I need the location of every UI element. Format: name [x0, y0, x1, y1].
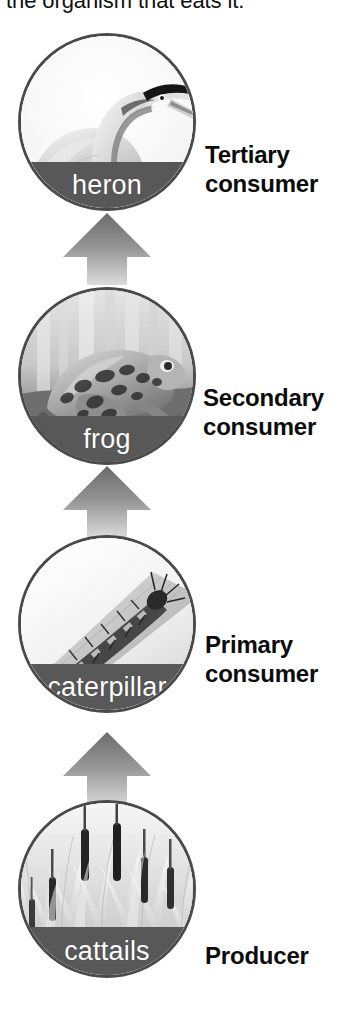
- tier-label-primary-line1: Primary: [205, 630, 318, 659]
- organism-name-frog: frog: [83, 426, 130, 453]
- tier-label-tertiary-line1: Tertiary: [205, 140, 318, 169]
- label-band-heron: heron: [21, 162, 193, 208]
- tier-label-tertiary-line2: consumer: [205, 169, 318, 198]
- medallion-heron[interactable]: heron: [18, 33, 196, 211]
- tier-label-secondary-line1: Secondary: [203, 383, 324, 412]
- food-chain-diagram: the organism that eats it.: [0, 0, 342, 1013]
- tier-label-primary-line2: consumer: [205, 659, 318, 688]
- tier-label-secondary: Secondary consumer: [203, 383, 324, 441]
- label-band-frog: frog: [21, 416, 193, 462]
- organism-name-caterpillar: caterpillar: [47, 674, 166, 701]
- tier-label-primary: Primary consumer: [205, 630, 318, 688]
- medallion-cattails[interactable]: cattails: [18, 800, 196, 978]
- medallion-frog[interactable]: frog: [18, 287, 196, 465]
- arrow-frog-to-heron: [63, 213, 151, 285]
- label-band-caterpillar: caterpillar: [21, 664, 193, 710]
- tier-label-secondary-line2: consumer: [203, 412, 324, 441]
- medallion-caterpillar[interactable]: caterpillar: [18, 535, 196, 713]
- tier-label-producer: Producer: [205, 941, 309, 970]
- caption-text: the organism that eats it.: [6, 0, 244, 15]
- organism-name-cattails: cattails: [64, 938, 150, 965]
- tier-label-producer-line1: Producer: [205, 941, 309, 970]
- arrow-cattails-to-caterpillar: [63, 732, 151, 810]
- organism-name-heron: heron: [72, 172, 142, 199]
- caption-clipped-text: the organism that eats it.: [0, 0, 342, 20]
- tier-label-tertiary: Tertiary consumer: [205, 140, 318, 198]
- arrow-caterpillar-to-frog: [63, 466, 151, 538]
- label-band-cattails: cattails: [21, 927, 193, 975]
